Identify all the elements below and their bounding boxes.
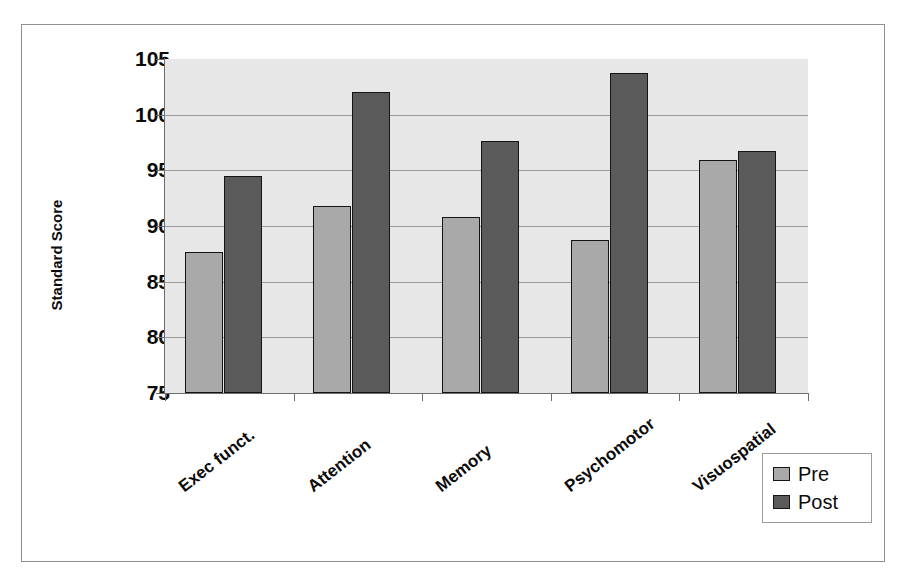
bar-pre-3 bbox=[571, 240, 609, 393]
x-axis-line bbox=[164, 393, 809, 394]
x-axis-category-label: Memory bbox=[432, 441, 496, 497]
y-axis-tick-mark bbox=[156, 337, 164, 338]
legend-swatch-post bbox=[773, 495, 790, 509]
gridline bbox=[165, 115, 808, 116]
bar-pre-1 bbox=[313, 206, 351, 393]
x-axis-tick-mark bbox=[551, 393, 552, 401]
y-axis-tick-mark bbox=[156, 282, 164, 283]
y-axis-tick-mark bbox=[156, 170, 164, 171]
legend-label-pre: Pre bbox=[798, 464, 829, 484]
bar-post-3 bbox=[610, 73, 648, 393]
bar-pre-0 bbox=[185, 252, 223, 393]
x-axis-category-label: Psychomotor bbox=[561, 414, 659, 497]
x-axis-category-label: Attention bbox=[304, 435, 375, 497]
y-axis-tick-mark bbox=[156, 393, 164, 394]
y-axis-tick-mark bbox=[156, 115, 164, 116]
legend-label-post: Post bbox=[798, 492, 838, 512]
legend-item-pre: Pre bbox=[773, 464, 829, 484]
legend-swatch-pre bbox=[773, 467, 790, 481]
x-axis-tick-mark bbox=[294, 393, 295, 401]
bar-post-4 bbox=[738, 151, 776, 393]
bar-pre-2 bbox=[442, 217, 480, 393]
bar-post-2 bbox=[481, 141, 519, 393]
chart-legend: Pre Post bbox=[762, 453, 872, 523]
y-axis-tick-mark bbox=[156, 226, 164, 227]
x-axis-tick-mark bbox=[165, 393, 166, 401]
bar-post-0 bbox=[224, 176, 262, 393]
x-axis-tick-mark bbox=[808, 393, 809, 401]
chart-page: Standard Score 1051009590858075 Exec fun… bbox=[0, 0, 907, 583]
y-axis-title: Standard Score bbox=[48, 155, 68, 355]
y-axis-line bbox=[164, 58, 165, 394]
y-axis-tick-mark bbox=[156, 59, 164, 60]
x-axis-category-label: Exec funct. bbox=[175, 425, 259, 497]
x-axis-tick-mark bbox=[422, 393, 423, 401]
bar-pre-4 bbox=[699, 160, 737, 393]
x-axis-tick-mark bbox=[679, 393, 680, 401]
bar-post-1 bbox=[352, 92, 390, 393]
legend-item-post: Post bbox=[773, 492, 838, 512]
figure-frame: Standard Score 1051009590858075 Exec fun… bbox=[21, 24, 885, 562]
y-axis-tick-labels: 1051009590858075 bbox=[98, 25, 170, 561]
plot-area bbox=[165, 59, 808, 393]
